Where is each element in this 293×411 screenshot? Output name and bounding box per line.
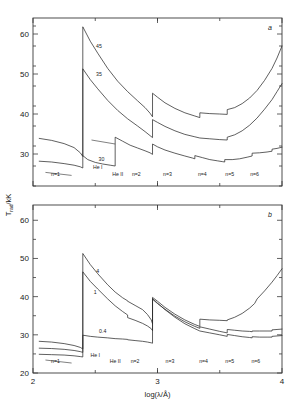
chart-svg: 30405060453530n=1He IHe IIn=2n=3n=4n=5n=… xyxy=(0,0,293,411)
curve-35 xyxy=(39,69,282,168)
y-tick-label: 50 xyxy=(20,70,29,79)
panel-letter: b xyxy=(268,211,272,218)
y-tick-label: 60 xyxy=(20,30,29,39)
edge-label: n=2 xyxy=(132,171,141,177)
panel-letter: a xyxy=(268,24,272,31)
curve-label-1: 1 xyxy=(94,289,97,295)
edge-label: n=4 xyxy=(199,358,208,364)
x-tick-label: 3 xyxy=(155,377,160,386)
edge-label: n=4 xyxy=(198,171,207,177)
curve-1 xyxy=(39,272,282,353)
curve-label-35: 35 xyxy=(96,71,102,77)
curve-label-30: 30 xyxy=(99,156,105,162)
y-tick-label: 40 xyxy=(20,110,29,119)
edge-label: n=3 xyxy=(163,171,172,177)
edge-label: He II xyxy=(110,358,121,364)
edge-label: n=5 xyxy=(225,358,234,364)
curve-45 xyxy=(39,27,282,157)
x-axis-title: log(λ/Å) xyxy=(145,390,171,399)
plot-frame xyxy=(33,205,282,373)
y-axis-title: Trad/kK xyxy=(4,194,14,217)
y-tick-label: 20 xyxy=(20,369,29,378)
panel-b: 2030405060234410.4n=1He IHe IIn=2n=3n=4n… xyxy=(20,205,285,386)
hei-leader-line xyxy=(92,140,116,144)
y-tick-label: 60 xyxy=(20,216,29,225)
curve-4 xyxy=(39,253,282,348)
y-tick-label: 50 xyxy=(20,254,29,263)
edge-label: n=3 xyxy=(166,358,175,364)
edge-label: He II xyxy=(112,171,123,177)
curve-label-4: 4 xyxy=(96,268,99,274)
x-tick-label: 2 xyxy=(31,377,36,386)
edge-label: n=6 xyxy=(251,358,260,364)
edge-label: n=5 xyxy=(225,171,234,177)
edge-label: n=2 xyxy=(131,358,140,364)
curve-label-45: 45 xyxy=(96,43,102,49)
curve-30 xyxy=(83,137,282,166)
y-tick-label: 30 xyxy=(20,150,29,159)
x-tick-label: 4 xyxy=(280,377,285,386)
figure-container: 30405060453530n=1He IHe IIn=2n=3n=4n=5n=… xyxy=(0,0,293,411)
curve-label-0.4: 0.4 xyxy=(99,328,106,334)
edge-label: He I xyxy=(93,164,103,170)
curve-0.4 xyxy=(39,299,282,357)
y-tick-label: 30 xyxy=(20,331,29,340)
edge-label: He I xyxy=(90,352,100,358)
edge-label: n=6 xyxy=(250,171,259,177)
y-tick-label: 40 xyxy=(20,293,29,302)
panel-a: 30405060453530n=1He IHe IIn=2n=3n=4n=5n=… xyxy=(20,18,282,186)
svg-text:Trad/kK: Trad/kK xyxy=(4,194,14,217)
